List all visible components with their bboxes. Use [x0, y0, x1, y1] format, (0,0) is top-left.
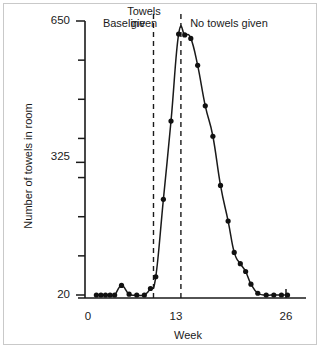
axes-group	[76, 21, 306, 298]
y-tick-marks	[76, 21, 85, 295]
data-point	[210, 134, 215, 139]
data-point	[103, 292, 108, 297]
data-point	[188, 36, 193, 41]
data-point	[255, 291, 260, 296]
data-point	[134, 292, 139, 297]
data-point	[243, 269, 248, 274]
data-point	[168, 118, 173, 123]
data-point	[182, 32, 187, 37]
data-point	[119, 283, 124, 288]
data-point	[248, 282, 253, 287]
data-point-markers	[94, 31, 290, 297]
data-point	[195, 63, 200, 68]
data-point	[285, 292, 290, 297]
data-point	[161, 197, 166, 202]
data-line	[96, 26, 287, 296]
data-point	[127, 292, 132, 297]
data-point	[94, 292, 99, 297]
data-point	[218, 183, 223, 188]
data-point	[238, 261, 243, 266]
data-point	[142, 292, 147, 297]
data-point	[226, 218, 231, 223]
chart-figure: Number of towels in room Week 650 325 20…	[0, 0, 320, 348]
data-point	[112, 292, 117, 297]
data-point	[153, 274, 158, 279]
data-point	[279, 292, 284, 297]
data-point	[98, 292, 103, 297]
data-point	[203, 103, 208, 108]
data-point	[148, 286, 153, 291]
data-point	[232, 250, 237, 255]
data-point	[264, 292, 269, 297]
data-point	[271, 292, 276, 297]
chart-plot-area	[0, 0, 320, 348]
data-point	[107, 292, 112, 297]
data-point	[176, 31, 181, 36]
